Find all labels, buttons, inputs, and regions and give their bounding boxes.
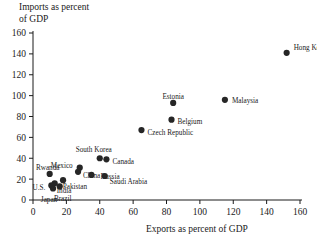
data-point-label: Canada [112,158,134,166]
data-point: China (27, 27) [75,169,81,175]
x-tick-label: 100 [193,207,208,217]
data-point-label: Malaysia [232,97,259,105]
x-tick-label: 160 [293,207,308,217]
y-tick-label: 100 [12,91,27,101]
data-point: Estonia (84, 93) [170,100,176,106]
data-point-label: Czech Republic [147,129,193,137]
y-tick-label: 60 [17,133,27,143]
data-point: Belgium (83, 77) [168,117,174,123]
data-point: Malaysia (115, 96) [222,97,228,103]
data-point: South Korea (40, 40) [97,155,103,161]
y-tick-label: 80 [17,112,27,122]
x-tick-label: 0 [31,207,36,217]
x-tick-label: 120 [226,207,241,217]
y-tick-label: 20 [17,175,27,185]
y-tick-label: 120 [12,70,27,80]
x-tick-label: 80 [162,207,172,217]
x-tick-label: 140 [260,207,275,217]
data-point: Hong Kong (152, 141) [284,50,290,56]
scatter-chart: Imports as percent of GDP Exports as per… [0,0,317,245]
y-tick-label: 160 [12,28,27,38]
data-point: Russia (35, 24) [88,172,94,178]
x-tick-label: 60 [128,207,138,217]
data-point-label: Belgium [178,118,203,126]
data-point: Rwanda (10, 25) [47,171,53,177]
data-point-label: Japan [41,196,58,204]
data-point: Canada (44, 39) [103,156,109,162]
data-point-label: Hong Kong [294,44,317,52]
data-point-label: Saudi Arabia [110,178,148,186]
plot-area: 0204060801001201401600204060801001201401… [0,0,317,245]
data-point: Saudi Arabia (43, 23) [102,173,108,179]
data-point: Czech Republic (65, 67) [138,127,144,133]
data-point: Brazil (16, 13) [57,183,63,189]
data-point: Japan (12, 11) [50,185,56,191]
data-point-label: Rwanda [36,164,60,172]
y-tick-label: 40 [17,154,27,164]
data-point-label: Pakistan [63,183,88,191]
x-tick-label: 20 [62,207,72,217]
data-point-label: South Korea [76,146,113,154]
data-point-label: U.S. [33,184,46,192]
y-tick-label: 0 [21,195,26,205]
x-tick-label: 40 [95,207,105,217]
data-point-label: Estonia [162,93,184,101]
y-tick-label: 140 [12,49,27,59]
